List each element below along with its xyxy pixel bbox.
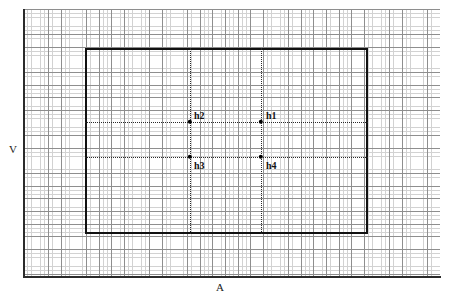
h-guide-lower <box>85 157 368 158</box>
y-axis-label: V <box>9 144 17 155</box>
x-axis-label: A <box>216 282 224 293</box>
point-label-h2: h2 <box>194 111 205 121</box>
h-guide-upper <box>85 122 368 123</box>
point-label-h4: h4 <box>266 161 277 171</box>
point-label-h3: h3 <box>194 161 205 171</box>
boundary-rectangle <box>85 48 368 234</box>
y-axis-spine <box>23 9 25 278</box>
x-axis-spine <box>23 276 441 278</box>
v-guide-left <box>190 48 191 234</box>
point-label-h1: h1 <box>266 111 277 121</box>
v-guide-right <box>261 48 262 234</box>
diagram-figure: V A h2 h1 h3 h4 <box>0 0 452 293</box>
